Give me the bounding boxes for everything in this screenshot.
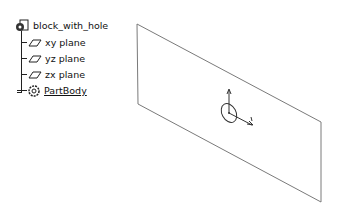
sketch-circle[interactable] <box>218 101 240 125</box>
tree-branch <box>21 74 27 75</box>
plane-icon <box>28 38 42 48</box>
body-gear-icon <box>27 84 41 98</box>
tree-branch <box>17 92 21 93</box>
part-document-icon <box>14 19 30 33</box>
v-axis-arrow-icon <box>227 89 231 94</box>
tree-branch <box>21 42 27 43</box>
tree-trunk <box>21 31 22 93</box>
tree-item-label: yz plane <box>45 53 85 65</box>
h-axis-line <box>229 113 252 125</box>
tree-item-yz-plane[interactable]: yz plane <box>28 52 85 65</box>
tree-item-label: xy plane <box>45 37 86 49</box>
plane-icon <box>28 70 42 80</box>
h-axis-tick <box>251 117 252 121</box>
specification-tree: block_with_hole xy plane yz plane zx pla… <box>0 0 120 110</box>
tree-item-label: zx plane <box>45 69 85 81</box>
tree-root-node[interactable]: block_with_hole <box>14 19 108 33</box>
tree-item-xy-plane[interactable]: xy plane <box>28 36 86 49</box>
tree-item-partbody[interactable]: PartBody <box>27 84 87 98</box>
tree-item-label: PartBody <box>44 85 87 97</box>
tree-item-zx-plane[interactable]: zx plane <box>28 68 85 81</box>
origin-point <box>228 112 230 114</box>
h-axis-arrow-icon <box>247 121 253 125</box>
plane-icon <box>28 54 42 64</box>
reference-plane[interactable] <box>137 24 321 202</box>
tree-branch <box>21 58 27 59</box>
tree-branch <box>17 90 27 91</box>
tree-root-label: block_with_hole <box>33 20 108 32</box>
